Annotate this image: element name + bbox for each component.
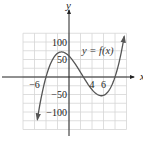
y-tick-label: 100 [52, 37, 67, 48]
x-axis-label: x [139, 70, 143, 82]
x-tick-label: 4 [90, 79, 95, 90]
y-axis-label: y [65, 0, 71, 11]
y-tick-label: −50 [51, 89, 67, 100]
function-label: y = f(x) [81, 45, 114, 57]
x-tick-label: −6 [29, 79, 40, 90]
chart: y x y = f(x) −64610050−50−100 [0, 0, 143, 142]
axes [2, 10, 134, 136]
y-tick-label: 50 [57, 54, 67, 65]
x-tick-label: 6 [101, 79, 106, 90]
y-tick-label: −100 [46, 107, 67, 118]
labels: y x y = f(x) [65, 0, 143, 82]
